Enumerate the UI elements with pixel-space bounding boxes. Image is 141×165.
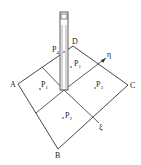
point-label-p2: P2: [65, 111, 72, 121]
divider-left-lower: [36, 90, 64, 113]
point-label-p4: P4: [52, 45, 59, 55]
point-dot-p1-upper: [70, 66, 72, 68]
point-label-p3: P3: [96, 80, 103, 90]
vertex-label-c: C: [130, 81, 135, 90]
axis-label-eta: η: [107, 50, 111, 59]
eta-arrowhead: [101, 58, 106, 63]
point-label-p1-upper: P1: [74, 59, 81, 69]
point-dot-p2: [62, 117, 64, 119]
column-post: [60, 12, 68, 90]
point-label-p1-left: P1: [41, 80, 48, 90]
vertex-label-d: D: [72, 37, 78, 46]
axis-label-xi: ξ: [99, 123, 103, 132]
vertex-label-b: B: [55, 151, 60, 160]
vertex-label-a: A: [10, 80, 16, 89]
outer-quadrilateral: [18, 46, 128, 149]
point-dot-p4: [63, 51, 65, 53]
diagram-canvas: A D C B η ξ P4 P1 P1 P3 P2: [0, 0, 141, 165]
